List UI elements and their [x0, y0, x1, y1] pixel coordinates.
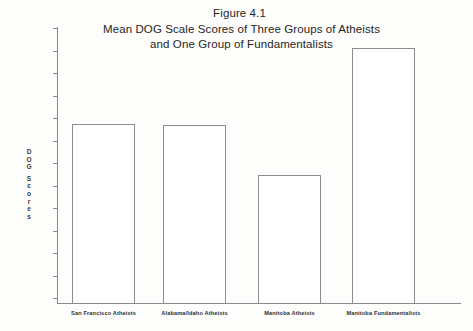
bar — [72, 124, 135, 303]
y-tick-mark — [53, 298, 58, 299]
y-axis-label: DOGScores — [22, 148, 36, 220]
y-axis-label-char: s — [22, 213, 36, 221]
y-tick-mark — [53, 208, 58, 209]
x-category-label: Manitoba Fundamentalists — [314, 310, 454, 316]
y-tick-mark — [53, 186, 58, 187]
y-tick-mark — [53, 276, 58, 277]
y-axis-label-char: G — [22, 163, 36, 171]
y-tick-mark — [53, 28, 58, 29]
y-tick-mark — [53, 118, 58, 119]
y-tick-mark — [53, 51, 58, 52]
y-tick-mark — [53, 163, 58, 164]
figure-page: Figure 4.1 Mean DOG Scale Scores of Thre… — [0, 0, 473, 331]
y-tick-mark — [53, 96, 58, 97]
bar-chart-plot: 102030405060708090100110120130 DOGScores… — [0, 0, 473, 331]
bar — [258, 175, 321, 303]
y-axis-label-char: e — [22, 205, 36, 213]
bar — [163, 125, 226, 303]
y-axis-spine — [57, 27, 58, 304]
y-axis-label-char: D — [22, 148, 36, 156]
x-axis-baseline — [57, 303, 461, 304]
y-tick-mark — [53, 141, 58, 142]
y-tick-mark — [53, 253, 58, 254]
bar — [352, 48, 415, 303]
y-axis-label-char: r — [22, 198, 36, 206]
y-tick-mark — [53, 73, 58, 74]
y-axis-label-char: S — [22, 175, 36, 183]
y-axis-label-char: O — [22, 156, 36, 164]
y-axis-label-char: o — [22, 190, 36, 198]
y-axis-label-char: c — [22, 182, 36, 190]
y-tick-mark — [53, 231, 58, 232]
